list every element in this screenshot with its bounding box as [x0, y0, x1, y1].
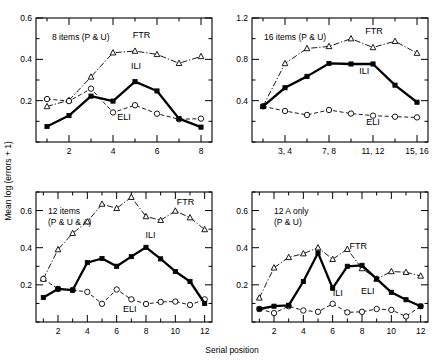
marker-eli [374, 306, 379, 311]
y-tick-label: 0.4 [236, 243, 248, 253]
marker-ili [133, 80, 137, 84]
y-tick-label: 0.4 [20, 243, 32, 253]
marker-ili [45, 124, 49, 128]
series-annotation-ftr: FTR [365, 26, 383, 36]
y-tick-label: 0.6 [236, 206, 248, 216]
marker-eli [173, 299, 178, 304]
marker-eli [345, 310, 350, 315]
marker-ili [316, 251, 320, 255]
marker-ftr [114, 205, 120, 210]
marker-ftr [282, 60, 288, 65]
x-tick-label: 12 [416, 326, 426, 336]
y-axis-title: Mean log (errors + 1) [3, 141, 13, 221]
marker-eli [315, 309, 320, 314]
marker-ftr [370, 44, 376, 49]
marker-ili [100, 256, 104, 260]
series-line-eli [43, 279, 204, 305]
marker-ili [375, 277, 379, 281]
marker-ftr [99, 201, 105, 206]
marker-ftr [128, 194, 134, 199]
series-annotation-ili: ILI [333, 288, 343, 298]
marker-eli [348, 111, 353, 116]
series-annotation-ili: ILI [145, 230, 155, 240]
marker-ili [257, 307, 261, 311]
x-tick-label: 6 [114, 326, 119, 336]
marker-eli [326, 107, 331, 112]
x-tick-label: 2 [56, 326, 61, 336]
marker-ili [283, 86, 287, 90]
marker-ftr [315, 245, 321, 250]
marker-eli [129, 297, 134, 302]
marker-eli [99, 301, 104, 306]
marker-eli [44, 96, 49, 101]
x-tick-label: 8 [199, 146, 204, 156]
marker-ili [301, 279, 305, 283]
marker-eli [403, 314, 408, 319]
marker-ili [272, 304, 276, 308]
marker-ftr [271, 265, 277, 270]
marker-eli [282, 108, 287, 113]
marker-ili [155, 89, 159, 93]
panel-bottom-left: 0.20.40.62468101212 items(P & U & A)ILIE… [20, 192, 212, 336]
marker-ili [261, 104, 265, 108]
marker-ili [85, 260, 89, 264]
figure-panel-grid: 0.20.40.624688 items (P & U)ILIELIFTR0.4… [0, 0, 435, 363]
panel-title: 8 items (P & U) [52, 32, 110, 42]
marker-eli [187, 302, 192, 307]
x-tick-label: 8 [360, 326, 365, 336]
marker-ili [360, 263, 364, 267]
series-line-ftr [263, 39, 417, 107]
series-annotation-ftr: FTR [177, 197, 195, 207]
panel-title: (P & U & A) [48, 217, 91, 227]
series-annotation-ftr: FTR [350, 241, 368, 251]
marker-ili [415, 100, 419, 104]
marker-eli [110, 110, 115, 115]
x-tick-label: 3, 4 [278, 146, 292, 156]
x-tick-label: 4 [85, 326, 90, 336]
marker-eli [414, 115, 419, 120]
x-tick-label: 11, 12 [361, 146, 384, 156]
marker-eli [389, 307, 394, 312]
x-tick-label: 6 [330, 326, 335, 336]
y-tick-label: 0.8 [236, 54, 248, 64]
marker-eli [85, 289, 90, 294]
y-tick-label: 0.6 [20, 13, 32, 23]
marker-ftr [403, 269, 409, 274]
panel-title: 16 items (P & U) [264, 32, 326, 42]
series-line-ili [259, 253, 420, 309]
y-tick-label: 0.2 [236, 280, 248, 290]
marker-ftr [202, 226, 208, 231]
marker-eli [132, 103, 137, 108]
x-tick-label: 6 [155, 146, 160, 156]
marker-ftr [392, 38, 398, 43]
marker-ftr [198, 53, 204, 58]
marker-ftr [132, 48, 138, 53]
marker-ili [371, 62, 375, 66]
panel-bottom-right: 0.20.40.62468101212 A only(P & U)ILIELIF… [236, 192, 428, 336]
marker-eli [330, 301, 335, 306]
marker-ftr [256, 295, 262, 300]
marker-ili [419, 304, 423, 308]
marker-ftr [414, 50, 420, 55]
marker-ili [199, 125, 203, 129]
figure-canvas: 0.20.40.624688 items (P & U)ILIELIFTR0.4… [0, 0, 435, 363]
marker-eli [114, 287, 119, 292]
marker-ili [349, 62, 353, 66]
marker-ili [56, 287, 60, 291]
marker-ili [327, 61, 331, 65]
series-annotation-eli: ELI [123, 304, 137, 314]
y-tick-label: 0.2 [20, 280, 32, 290]
panel-title: 12 A only [274, 206, 309, 216]
marker-eli [66, 98, 71, 103]
marker-ftr [348, 36, 354, 41]
marker-ili [129, 255, 133, 259]
panel-title: 12 items [48, 206, 80, 216]
marker-eli [88, 86, 93, 91]
marker-ili [345, 264, 349, 268]
panel-title: (P & U) [274, 217, 302, 227]
marker-ili [305, 74, 309, 78]
marker-ftr [388, 268, 394, 273]
marker-eli [158, 299, 163, 304]
y-tick-label: 0.2 [20, 96, 32, 106]
series-annotation-ftr: FTR [133, 30, 151, 40]
